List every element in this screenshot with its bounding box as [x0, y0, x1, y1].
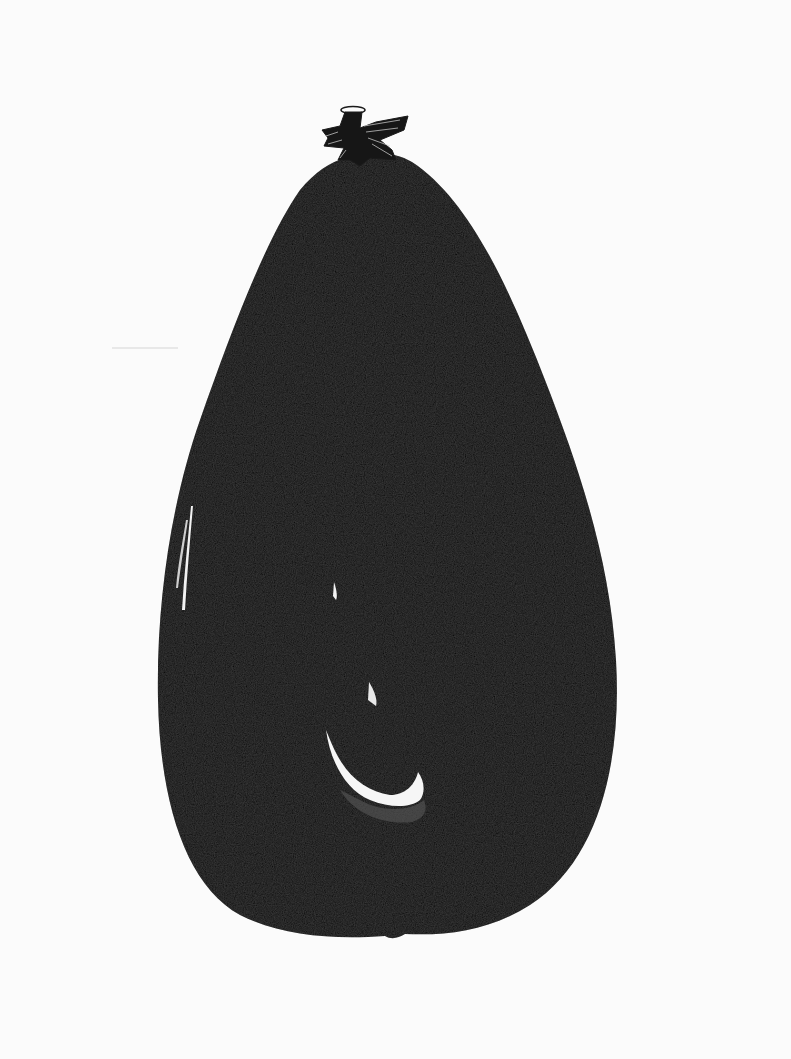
eggplant-calyx-stem — [322, 107, 408, 167]
drawing-canvas — [0, 0, 791, 1059]
eggplant-illustration — [0, 0, 791, 1059]
